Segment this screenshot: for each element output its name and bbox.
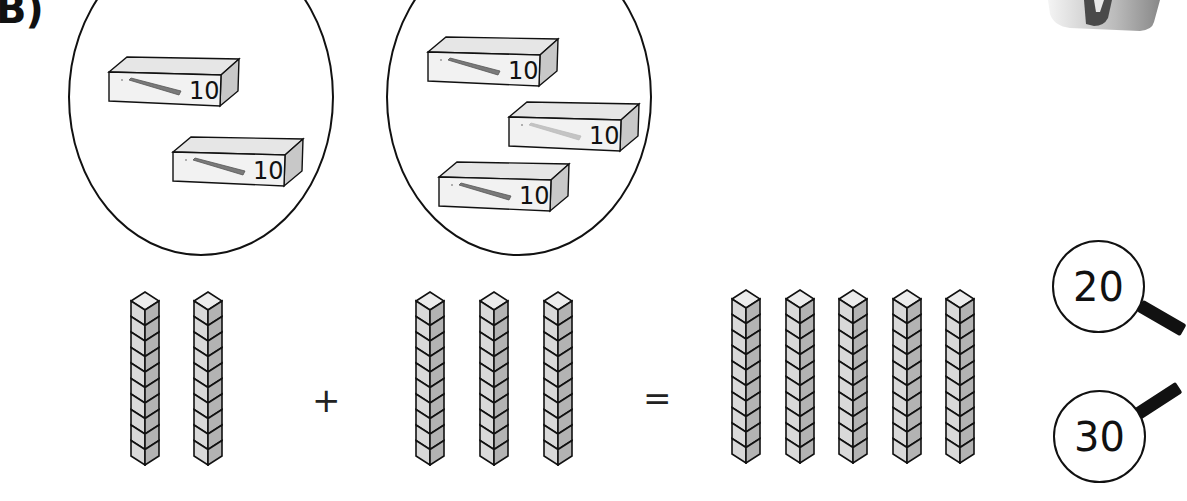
- ten-rod: [731, 289, 761, 464]
- answer-option-value: 30: [1074, 414, 1125, 460]
- box-of-ten: 10: [171, 133, 307, 189]
- ten-rod: [415, 291, 445, 466]
- box-of-ten: 10: [107, 53, 243, 109]
- connector-line-20: [1137, 300, 1187, 336]
- answer-option-20[interactable]: 20: [1052, 240, 1145, 333]
- ten-rod: [130, 291, 160, 466]
- box-label: 10: [519, 182, 550, 210]
- plus-sign: +: [312, 380, 341, 420]
- ten-rod: [785, 289, 815, 464]
- answer-option-value: 20: [1073, 264, 1124, 310]
- corner-illustration: [1040, 0, 1176, 36]
- box-label: 10: [589, 122, 620, 150]
- ten-rod: [479, 291, 509, 466]
- ten-rod: [193, 291, 223, 466]
- box-of-ten: 10: [437, 158, 573, 214]
- box-label: 10: [189, 77, 220, 105]
- ten-rod: [892, 289, 922, 464]
- box-of-ten: 10: [426, 33, 562, 89]
- equals-sign: =: [643, 378, 672, 418]
- pencil-hand-icon: [1040, 0, 1176, 36]
- box-label: 10: [508, 57, 539, 85]
- ten-rod: [945, 289, 975, 464]
- ten-rod: [838, 289, 868, 464]
- box-of-ten: 10: [507, 98, 643, 154]
- answer-option-30[interactable]: 30: [1053, 390, 1146, 483]
- question-label: B): [0, 0, 43, 32]
- group-circle-left: [68, 0, 334, 256]
- box-label: 10: [253, 157, 284, 185]
- ten-rod: [543, 291, 573, 466]
